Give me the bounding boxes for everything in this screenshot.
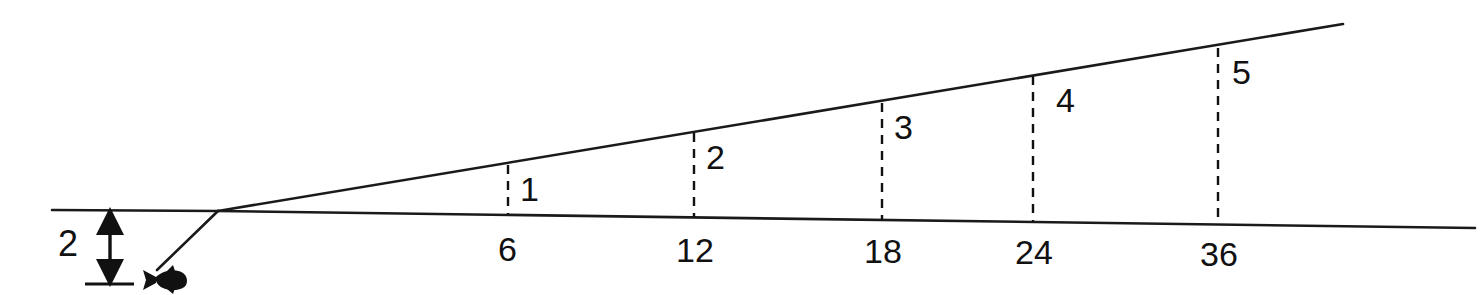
depth-axis-label-12: 12 (676, 233, 714, 267)
sonar-beam-diagram: 2 1 2 3 4 5 6 12 18 24 36 (0, 0, 1484, 295)
depth-axis-label-18: 18 (864, 234, 902, 268)
depth-axis-label-36: 36 (1200, 237, 1238, 271)
depth-axis-label-6: 6 (498, 232, 517, 266)
beam-width-label-4: 4 (1056, 83, 1075, 117)
diagram-canvas (0, 0, 1484, 295)
bottom-boundary-line (218, 211, 1475, 228)
depth-axis-label-24: 24 (1015, 235, 1053, 269)
transducer-beam-line (157, 211, 218, 270)
water-surface-line (52, 210, 218, 211)
beam-width-label-2: 2 (706, 140, 725, 174)
beam-upper-boundary-line (218, 24, 1343, 211)
fish-icon (143, 265, 187, 294)
depth-dimension-label: 2 (58, 226, 78, 262)
beam-width-label-5: 5 (1232, 55, 1251, 89)
beam-marker-lines (508, 48, 1218, 225)
beam-width-label-1: 1 (520, 172, 539, 206)
beam-width-label-3: 3 (894, 110, 913, 144)
